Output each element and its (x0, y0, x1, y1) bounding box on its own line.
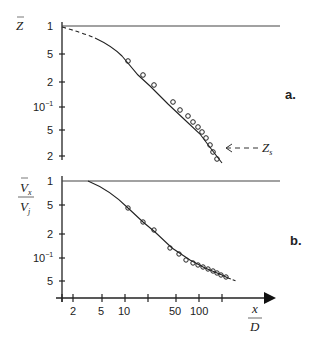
y-axis-label-b-numerator: Vx (20, 180, 32, 197)
y-tick-label: 2 (47, 76, 53, 88)
y-tick-label: 1 (47, 175, 53, 187)
theory-curve-dashed-a (62, 27, 95, 38)
y-tick-label: 5 (47, 48, 53, 60)
x-tick-label: 2 (70, 305, 76, 317)
y-tick-label: 2 (47, 150, 53, 162)
panel-label-a: a. (285, 87, 296, 102)
data-points-a (126, 59, 220, 162)
panel-a: Z 1 5 2 10−1 5 2 Zs a. (16, 17, 296, 163)
y-axis-label-a: Z (16, 18, 24, 33)
zs-annotation: Zs (226, 140, 272, 157)
x-tick-label: 10 (118, 305, 130, 317)
y-axis-label-b-denominator: Vj (20, 199, 31, 216)
theory-curve-dashed-b (228, 278, 236, 281)
y-tick-label: 10−1 (33, 100, 53, 113)
chart-figure: Z 1 5 2 10−1 5 2 Zs a. (0, 0, 317, 338)
y-tick-label: 5 (47, 275, 53, 287)
theory-curve-a (95, 38, 222, 163)
y-tick-label: 2 (47, 228, 53, 240)
x-tick-label: 50 (169, 305, 181, 317)
theory-curve-b (88, 181, 228, 278)
x-axis-label-numerator: x (251, 301, 258, 316)
x-axis: 2 5 10 50 100 x D (56, 292, 276, 334)
y-tick-label: 10−1 (33, 251, 53, 264)
arrow-head-icon (264, 292, 276, 304)
x-tick-label: 100 (190, 305, 208, 317)
y-tick-label: 5 (47, 124, 53, 136)
data-points-b (126, 206, 228, 279)
zs-label: Zs (262, 140, 272, 157)
panel-b: Vx Vj 1 5 2 10−1 5 b. (18, 175, 302, 302)
panel-label-b: b. (290, 233, 302, 248)
y-tick-label: 1 (47, 20, 53, 32)
x-tick-label: 5 (98, 305, 104, 317)
x-axis-label-denominator: D (249, 319, 260, 334)
y-tick-label: 5 (47, 199, 53, 211)
